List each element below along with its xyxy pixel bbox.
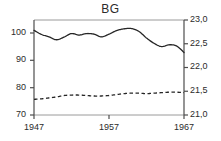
- series-line-solid: [34, 28, 184, 52]
- left-tick-label-100: 100: [2, 27, 26, 37]
- right-axis-ticks: [184, 20, 188, 115]
- left-tick-label-90: 90: [2, 54, 26, 64]
- left-tick-label-80: 80: [2, 82, 26, 92]
- right-tick-label-22-5: 22,5: [190, 38, 220, 48]
- right-tick-label-21-5: 21,5: [190, 85, 220, 95]
- series-line-dashed: [34, 92, 184, 99]
- right-tick-label-23-0: 23,0: [190, 14, 220, 24]
- x-tick-label-1947: 1947: [14, 122, 54, 132]
- x-tick-label-1957: 1957: [89, 122, 129, 132]
- x-axis-ticks: [34, 115, 184, 119]
- left-tick-label-70: 70: [2, 109, 26, 119]
- right-tick-label-21-0: 21,0: [190, 109, 220, 119]
- chart-figure: BG 100 90 80: [0, 0, 221, 141]
- right-tick-label-22-0: 22,0: [190, 61, 220, 71]
- x-tick-label-1967: 1967: [164, 122, 204, 132]
- plot-area: [0, 0, 221, 141]
